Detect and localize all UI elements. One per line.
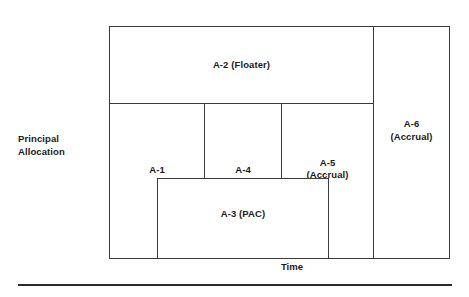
y-axis-label-line-2: Allocation — [18, 146, 103, 159]
tranche-label-a4: A-4 — [235, 164, 251, 177]
x-axis-label: Time — [262, 261, 322, 273]
y-axis-label-line-1: Principal — [18, 133, 103, 146]
principal-allocation-diagram: Principal Allocation A-2 (Floater) A-1 A… — [0, 0, 469, 297]
tranche-label-a6: A-6 (Accrual) — [390, 118, 432, 143]
tranche-block-a2: A-2 (Floater) — [109, 26, 374, 104]
tranche-block-a6: A-6 (Accrual) — [373, 26, 450, 259]
tranche-label-a1: A-1 — [149, 164, 165, 177]
bottom-divider-rule — [18, 284, 452, 286]
y-axis-label: Principal Allocation — [18, 133, 103, 158]
tranche-label-a2: A-2 (Floater) — [213, 59, 270, 72]
tranche-label-a3: A-3 (PAC) — [221, 208, 266, 221]
tranche-block-a3: A-3 (PAC) — [157, 178, 329, 259]
